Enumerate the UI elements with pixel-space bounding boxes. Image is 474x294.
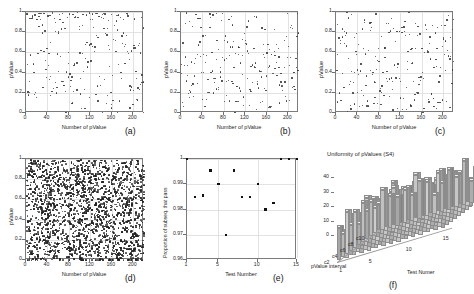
data-point <box>282 86 283 87</box>
x-axis-tick-label: 0 <box>24 262 27 267</box>
x-axis-tick-label: 200 <box>283 115 292 120</box>
data-point <box>130 165 132 167</box>
data-point <box>36 185 38 187</box>
data-point <box>118 164 120 166</box>
data-point <box>450 37 451 38</box>
data-point <box>139 89 140 90</box>
data-point <box>294 89 295 90</box>
data-point <box>90 179 92 181</box>
data-point <box>83 234 85 236</box>
data-point <box>95 94 96 95</box>
data-point <box>122 172 124 174</box>
data-point <box>51 242 53 244</box>
y-axis-tick-label: 0.8 <box>313 29 332 34</box>
data-point <box>125 209 127 211</box>
data-point <box>85 242 87 244</box>
data-point <box>126 35 127 36</box>
data-point <box>227 41 228 42</box>
data-point <box>42 24 43 25</box>
data-point <box>86 14 87 15</box>
bar-top-face <box>447 167 451 170</box>
data-point <box>123 19 124 20</box>
data-point <box>444 25 445 26</box>
data-point <box>34 226 36 228</box>
data-point <box>276 44 277 45</box>
data-point <box>38 16 39 17</box>
data-point <box>394 64 395 65</box>
data-point <box>125 191 127 193</box>
data-point <box>29 81 30 82</box>
bar-front-face <box>417 181 421 219</box>
data-point <box>81 203 83 205</box>
bar-front-face <box>447 170 451 209</box>
data-point <box>27 247 29 249</box>
data-point <box>84 166 86 168</box>
data-point <box>233 169 235 171</box>
data-point <box>80 244 82 246</box>
y-axis-tick <box>177 92 180 93</box>
data-point <box>98 16 99 17</box>
data-point <box>113 188 115 190</box>
data-point <box>346 45 347 46</box>
data-point <box>86 249 88 251</box>
y-axis-tick-label: 0.2 <box>3 236 22 241</box>
data-point <box>43 195 45 197</box>
data-point <box>61 207 63 209</box>
x-axis-label-a: Number of pValue <box>62 125 107 131</box>
data-point <box>94 164 96 166</box>
data-point <box>115 218 117 220</box>
data-point <box>103 18 104 19</box>
data-point <box>110 225 112 227</box>
y-axis-tick <box>22 31 25 32</box>
y-axis-tick <box>183 183 186 184</box>
y-axis-tick-label: 0.6 <box>3 196 22 201</box>
data-point <box>293 86 294 87</box>
data-point <box>94 238 96 240</box>
data-point <box>143 233 145 235</box>
data-point <box>90 60 91 61</box>
data-point <box>94 46 95 47</box>
data-point <box>224 59 225 60</box>
data-point <box>404 21 405 22</box>
data-point <box>136 203 138 205</box>
data-point <box>439 102 440 103</box>
bar-top-face <box>345 209 349 212</box>
data-point <box>447 50 448 51</box>
bar-side-face <box>385 187 388 228</box>
y-axis-tick-label: 1 <box>3 155 22 160</box>
data-point <box>35 200 37 202</box>
data-point <box>106 225 108 227</box>
data-point <box>91 187 93 189</box>
bar-front-face <box>410 195 414 221</box>
y-axis-tick <box>22 51 25 52</box>
data-point <box>100 206 102 208</box>
data-point <box>65 205 67 207</box>
data-point <box>452 29 453 30</box>
data-point <box>118 227 120 229</box>
data-point <box>96 215 98 217</box>
data-point <box>36 237 38 239</box>
data-point <box>54 230 56 232</box>
y-axis-tick-label: 1 <box>164 155 183 160</box>
data-point <box>27 64 28 65</box>
data-point <box>101 196 103 198</box>
data-point <box>98 259 100 261</box>
data-point <box>28 94 29 95</box>
panel-f-x-axis-title: Test Numer <box>407 269 435 276</box>
data-point <box>118 168 120 170</box>
data-point <box>94 218 96 220</box>
data-point <box>26 167 28 169</box>
data-point <box>221 20 222 21</box>
data-point <box>33 205 35 207</box>
data-point <box>403 98 404 99</box>
data-point <box>26 205 28 207</box>
data-point <box>30 209 32 211</box>
data-point <box>60 194 62 196</box>
data-point <box>49 233 51 235</box>
data-point <box>202 35 203 36</box>
y-axis-tick <box>177 31 180 32</box>
x-axis-tick-label: 1 <box>185 262 188 267</box>
data-point <box>56 175 58 177</box>
data-point <box>122 168 124 170</box>
data-point <box>50 42 51 43</box>
